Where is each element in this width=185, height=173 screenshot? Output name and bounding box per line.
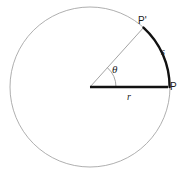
arc-s-path [144,28,170,87]
label-point-p: P [170,82,177,92]
label-point-p-prime: P' [138,16,147,26]
label-angle-theta: θ [112,64,117,75]
label-arc-length-s: s [161,47,165,57]
label-radius-r: r [127,92,131,102]
circle-arc-diagram: P' s θ r P [0,0,185,173]
radius-to-p-prime-line [90,28,144,87]
diagram-canvas [0,0,185,173]
